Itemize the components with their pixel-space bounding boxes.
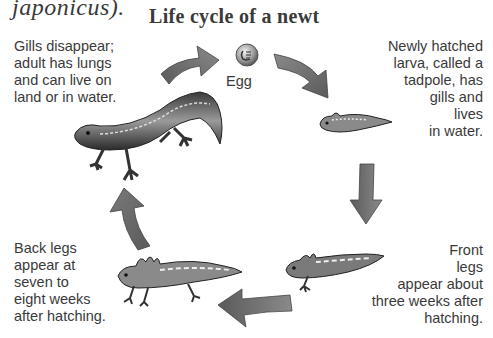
partial-caption-text: japonicus).: [12, 0, 125, 21]
back-legs-stage-label: Back legs appear at seven to eight weeks…: [14, 240, 106, 325]
arrow-egg-to-tadpole-icon: [270, 48, 332, 104]
larva-front-legs-illustration: [282, 246, 386, 294]
diagram-title: Life cycle of a newt: [149, 5, 319, 28]
arrow-back-legs-to-adult-icon: [104, 186, 154, 252]
arrow-tadpole-to-front-legs-icon: [346, 160, 386, 226]
adult-newt-illustration: [70, 88, 230, 188]
egg-stage-label: Egg: [226, 73, 252, 89]
egg-icon: [234, 42, 260, 68]
arrow-adult-to-egg-icon: [155, 38, 225, 88]
tadpole-illustration: [318, 108, 394, 136]
larva-back-legs-illustration: [114, 248, 244, 310]
